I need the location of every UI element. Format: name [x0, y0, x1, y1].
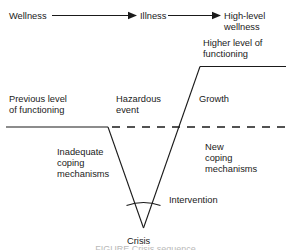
- label-new-coping-line1: New: [205, 142, 224, 152]
- label-hazardous-event-line1: Hazardous: [116, 94, 161, 104]
- label-new-coping-line3: mechanisms: [205, 164, 258, 174]
- label-intervention: Intervention: [169, 195, 218, 205]
- crisis-arc: [127, 203, 161, 206]
- label-higher-level-line1: Higher level of: [203, 38, 263, 48]
- arrow-wellness-to-illness-head: [128, 12, 137, 19]
- hazardous-event-label-group: Hazardous event: [116, 94, 161, 115]
- descent-line-into-crisis: [108, 127, 144, 228]
- inadequate-coping-label-group: Inadequate coping mechanisms: [57, 147, 110, 179]
- top-flow-group: Wellness Illness High-level wellness: [9, 11, 265, 32]
- label-inadequate-line1: Inadequate: [57, 147, 104, 157]
- label-wellness: Wellness: [9, 11, 47, 21]
- crisis-diagram: Wellness Illness High-level wellness Hig…: [0, 0, 291, 250]
- label-inadequate-line2: coping: [57, 158, 84, 168]
- label-previous-level-line2: of functioning: [9, 105, 64, 115]
- label-illness: Illness: [140, 11, 167, 21]
- higher-level-label-group: Higher level of functioning: [203, 38, 263, 59]
- label-high-level-wellness-line1: High-level: [224, 11, 265, 21]
- label-inadequate-line3: mechanisms: [57, 169, 110, 179]
- new-coping-label-group: New coping mechanisms: [205, 142, 258, 174]
- label-high-level-wellness-line2: wellness: [223, 22, 260, 32]
- label-previous-level-line1: Previous level: [9, 94, 67, 104]
- diagram-svg: Wellness Illness High-level wellness Hig…: [0, 0, 291, 250]
- figure-caption-cropped: FIGURE Crisis sequence: [0, 244, 291, 250]
- label-new-coping-line2: coping: [205, 153, 232, 163]
- previous-level-label-group: Previous level of functioning: [9, 94, 67, 115]
- arrow-illness-to-wellness-head: [212, 12, 221, 19]
- label-growth: Growth: [199, 94, 229, 104]
- label-hazardous-event-line2: event: [116, 105, 139, 115]
- label-higher-level-line2: functioning: [203, 49, 248, 59]
